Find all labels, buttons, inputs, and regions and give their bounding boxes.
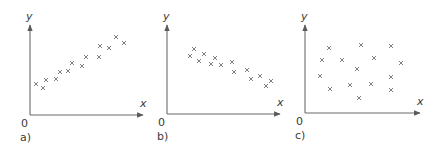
- data-point-cross-icon: [202, 52, 206, 56]
- data-point-cross-icon: [245, 68, 249, 72]
- data-point-cross-icon: [269, 79, 273, 83]
- data-point-cross-icon: [41, 86, 45, 90]
- data-point-cross-icon: [122, 41, 126, 45]
- data-point-cross-icon: [197, 59, 201, 63]
- data-point-cross-icon: [54, 77, 58, 81]
- panel-label: c): [295, 129, 305, 142]
- data-point-cross-icon: [114, 35, 118, 39]
- x-axis-label: x: [276, 96, 284, 109]
- data-point-cross-icon: [355, 67, 359, 71]
- x-axis-label: x: [139, 97, 147, 110]
- data-point-cross-icon: [70, 61, 74, 65]
- data-point-cross-icon: [318, 74, 322, 78]
- data-point-cross-icon: [357, 96, 361, 100]
- x-axis-label: x: [416, 95, 424, 108]
- y-axis-label: y: [25, 10, 33, 23]
- data-point-cross-icon: [34, 82, 38, 86]
- origin-label: 0: [21, 117, 28, 130]
- data-point-cross-icon: [399, 61, 403, 65]
- data-point-cross-icon: [348, 83, 352, 87]
- data-point-cross-icon: [66, 69, 70, 73]
- origin-label: 0: [158, 116, 165, 129]
- scatter-panel-a: yx0a): [20, 10, 147, 144]
- data-point-cross-icon: [80, 64, 84, 68]
- data-point-cross-icon: [44, 78, 48, 82]
- data-point-cross-icon: [389, 44, 393, 48]
- data-point-cross-icon: [213, 56, 217, 60]
- data-point-cross-icon: [340, 58, 344, 62]
- data-point-cross-icon: [369, 82, 373, 86]
- data-point-cross-icon: [209, 62, 213, 66]
- data-point-cross-icon: [264, 84, 268, 88]
- data-point-cross-icon: [232, 70, 236, 74]
- data-point-cross-icon: [389, 88, 393, 92]
- origin-label: 0: [296, 115, 303, 128]
- data-point-cross-icon: [188, 54, 192, 58]
- scatter-panel-b: yx0b): [157, 10, 284, 143]
- data-point-cross-icon: [258, 74, 262, 78]
- data-point-cross-icon: [192, 47, 196, 51]
- panel-label: b): [157, 130, 168, 143]
- panel-label: a): [20, 131, 31, 144]
- data-point-cross-icon: [372, 56, 376, 60]
- scatter-diagrams: yx0a)yx0b)yx0c): [0, 0, 439, 151]
- scatter-panel-c: yx0c): [295, 10, 424, 142]
- data-point-cross-icon: [320, 58, 324, 62]
- data-point-cross-icon: [107, 46, 111, 50]
- data-point-cross-icon: [98, 44, 102, 48]
- data-point-cross-icon: [327, 46, 331, 50]
- data-point-cross-icon: [230, 60, 234, 64]
- data-point-cross-icon: [97, 55, 101, 59]
- data-point-cross-icon: [84, 55, 88, 59]
- data-point-cross-icon: [328, 87, 332, 91]
- data-point-cross-icon: [58, 70, 62, 74]
- data-point-cross-icon: [219, 63, 223, 67]
- y-axis-label: y: [300, 10, 308, 23]
- y-axis-label: y: [162, 10, 170, 23]
- data-point-cross-icon: [359, 43, 363, 47]
- data-point-cross-icon: [389, 75, 393, 79]
- data-point-cross-icon: [249, 77, 253, 81]
